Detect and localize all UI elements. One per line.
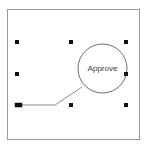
diagram-canvas[interactable]: Approve xyxy=(0,0,147,147)
handle-top-right[interactable] xyxy=(124,40,128,44)
handle-bottom-right[interactable] xyxy=(124,103,128,107)
handle-middle-right[interactable] xyxy=(124,72,128,76)
connector-start-endpoint[interactable] xyxy=(15,103,22,107)
approve-node-label: Approve xyxy=(88,64,118,73)
handle-top-left[interactable] xyxy=(15,40,19,44)
diagram-frame[interactable] xyxy=(8,10,140,140)
diagram-surface[interactable]: Approve xyxy=(0,0,147,147)
handle-middle-left[interactable] xyxy=(15,72,19,76)
handle-top-center[interactable] xyxy=(69,40,73,44)
handle-bottom-center[interactable] xyxy=(69,103,73,107)
